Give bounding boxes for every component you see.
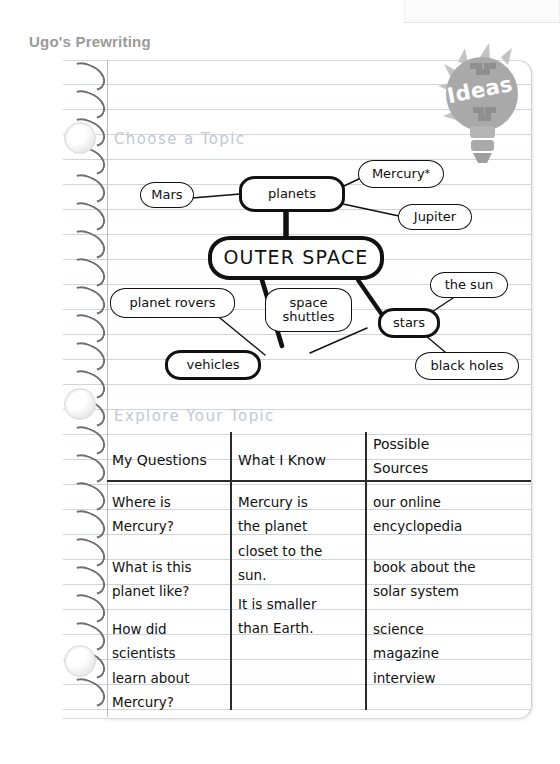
table-cell-question-1[interactable]: Where is Mercury? [112,490,174,539]
explore-topic-table: My Questions What I Know Possible Source… [107,432,531,714]
page-title: Ugo's Prewriting [29,33,151,50]
table-cell-source-2[interactable]: book about the solar system [373,555,476,604]
map-node-planets[interactable]: planets [239,176,345,212]
table-cell-source-4[interactable]: interview [373,666,436,690]
spiral-coil [65,674,110,712]
map-node-mercury-label: Mercury [372,167,425,182]
top-cutoff-strip [404,0,560,23]
map-node-outer-space[interactable]: OUTER SPACE [208,236,384,280]
table-cell-question-3[interactable]: How did scientists learn about Mercury? [112,617,189,715]
table-column-header-what-i-know: What I Know [238,448,326,472]
map-node-vehicles[interactable]: vehicles [165,350,261,380]
map-node-jupiter[interactable]: Jupiter [398,204,472,230]
map-node-stars[interactable]: stars [378,308,440,338]
map-node-planet-rovers[interactable]: planet rovers [110,288,235,318]
table-cell-source-3[interactable]: science magazine [373,617,439,666]
table-cell-question-2[interactable]: What is this planet like? [112,555,191,604]
map-node-the-sun[interactable]: the sun [430,272,508,298]
section-heading-explore-your-topic: Explore Your Topic [114,407,275,425]
link-mars-planets [192,194,240,198]
table-divider-2 [365,432,367,710]
table-cell-know-2[interactable]: It is smaller than Earth. [238,592,316,641]
table-cell-source-1[interactable]: our online encyclopedia [373,490,462,539]
map-node-mars[interactable]: Mars [140,182,194,208]
table-column-header-my-questions: My Questions [112,448,207,472]
table-cell-know-1[interactable]: Mercury is the planet closet to the sun. [238,490,322,588]
table-header-rule [107,480,531,482]
punch-hole [64,645,96,677]
ideas-lightbulb-icon: Ideas [410,34,540,164]
section-heading-choose-a-topic: Choose a Topic [114,130,245,148]
punch-hole [64,388,96,420]
map-node-mercury[interactable]: Mercury* [358,160,444,188]
map-node-space-shuttles[interactable]: space shuttles [265,288,352,332]
concept-map: Mars planets Mercury* Jupiter OUTER SPAC… [105,150,531,400]
table-divider-1 [230,432,232,710]
map-node-black-holes[interactable]: black holes [415,352,519,380]
punch-hole [64,122,96,154]
link-planets-jupiter [343,204,399,216]
table-column-header-possible-sources: Possible Sources [373,432,429,481]
